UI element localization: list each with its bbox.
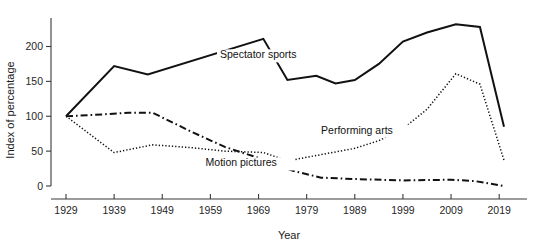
y-axis-title: Index of percentage xyxy=(4,61,16,158)
x-tick-label: 1969 xyxy=(247,204,271,216)
chart-container: 050100150200 192919391949195919691979198… xyxy=(0,0,533,248)
y-axis: 050100150200 xyxy=(25,18,51,192)
series-label-performing-arts: Performing arts xyxy=(321,124,393,136)
series-line-performing-arts xyxy=(66,74,504,161)
y-tick-label: 150 xyxy=(25,75,43,87)
series-line-spectator-sports xyxy=(66,24,504,127)
x-tick-label: 1929 xyxy=(54,204,78,216)
x-tick-label: 1949 xyxy=(151,204,175,216)
series-line-motion-pictures xyxy=(66,113,504,186)
x-tick-label: 1939 xyxy=(102,204,126,216)
y-tick-label: 200 xyxy=(25,40,43,52)
y-tick-label: 100 xyxy=(25,110,43,122)
x-axis-title: Year xyxy=(278,229,301,241)
x-tick-label: 2009 xyxy=(439,204,463,216)
y-tick-label: 0 xyxy=(37,180,43,192)
x-tick-label: 1959 xyxy=(199,204,223,216)
y-tick-label: 50 xyxy=(31,145,43,157)
series-label-spectator-sports: Spectator sports xyxy=(220,48,296,60)
x-axis: 1929193919491959196919791989199920092019 xyxy=(51,194,527,216)
series-label-motion-pictures: Motion pictures xyxy=(206,156,277,168)
x-tick-label: 1999 xyxy=(391,204,415,216)
x-tick-label: 1979 xyxy=(295,204,319,216)
x-tick-label: 2019 xyxy=(488,204,512,216)
series-label-group: Spectator sportsPerforming artsMotion pi… xyxy=(203,48,411,170)
x-tick-label: 1989 xyxy=(343,204,367,216)
line-chart: 050100150200 192919391949195919691979198… xyxy=(0,0,533,248)
